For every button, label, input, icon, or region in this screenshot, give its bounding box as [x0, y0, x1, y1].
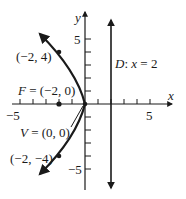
- vertex-point: [83, 102, 88, 107]
- x-tick-label-neg5: −5: [6, 108, 20, 123]
- y-tick-label-pos5: 5: [74, 32, 81, 47]
- directrix-label: D: x = 2: [114, 56, 157, 71]
- vertex-label: V = (0, 0): [20, 125, 70, 140]
- y-tick-label-neg5: −5: [68, 162, 82, 177]
- x-tick-label-pos5: 5: [146, 108, 153, 123]
- point-bottom-label: (−2, −4): [10, 151, 53, 166]
- point-bottom: [57, 154, 62, 159]
- point-top-label: (−2, 4): [16, 49, 52, 64]
- focus-point: [56, 101, 61, 106]
- point-top: [57, 50, 62, 55]
- vertex-label-value: = (0, 0): [28, 125, 70, 140]
- y-axis-label: y: [73, 10, 81, 25]
- parabola-diagram: y x −5 5 5 −5 (−2, 4) (−2, −4) F = (−2, …: [0, 0, 186, 199]
- focus-label: F = (−2, 0): [17, 83, 75, 98]
- x-axis-label: x: [167, 88, 174, 103]
- focus-label-value: = (−2, 0): [26, 83, 75, 98]
